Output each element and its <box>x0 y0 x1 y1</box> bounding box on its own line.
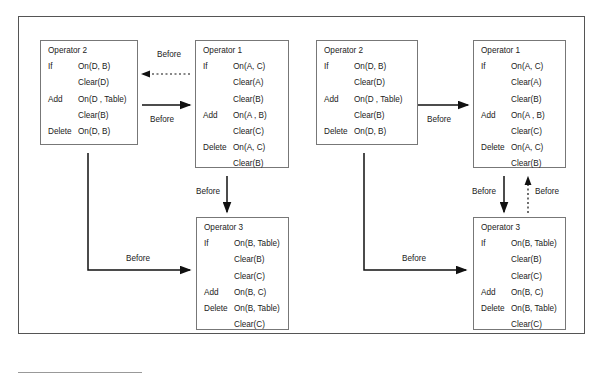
operator-condition: Clear(B) <box>511 252 541 268</box>
operator-row: Clear(C) <box>481 269 565 285</box>
operator-condition: On(B, C) <box>234 285 266 301</box>
operator-condition: On(A, C) <box>233 140 265 156</box>
operator-keyword: Delete <box>481 140 511 156</box>
operator-title: Operator 3 <box>204 220 288 236</box>
operator-row: DeleteOn(B, Table) <box>481 301 565 317</box>
operator-row: IfOn(B, Table) <box>481 236 565 252</box>
operator-condition: On(B, C) <box>511 285 543 301</box>
operator-box-operator-3: Operator 3IfOn(B, Table)Clear(B)Clear(C)… <box>196 217 289 330</box>
operator-row: AddOn(A , B) <box>203 108 288 124</box>
edge-label-before: Before <box>157 50 181 59</box>
operator-row: DeleteOn(D, B) <box>48 124 137 140</box>
operator-row: AddOn(D , Table) <box>324 92 417 108</box>
operator-keyword <box>203 75 233 91</box>
operator-row: IfOn(B, Table) <box>204 236 288 252</box>
edge-label-before: Before <box>535 187 559 196</box>
operator-keyword <box>481 92 511 108</box>
operator-keyword: Add <box>481 108 511 124</box>
operator-row: Clear(D) <box>324 75 417 91</box>
operator-condition: On(D , Table) <box>354 92 403 108</box>
operator-keyword <box>324 108 354 124</box>
operator-keyword <box>481 75 511 91</box>
operator-condition: Clear(C) <box>511 317 542 333</box>
operator-row: IfOn(A, C) <box>481 59 565 75</box>
operator-row: DeleteOn(A, C) <box>481 140 565 156</box>
operator-condition: On(B, Table) <box>511 236 557 252</box>
edge-label-before: Before <box>427 115 451 124</box>
operator-condition: On(D, B) <box>78 59 110 75</box>
operator-condition: Clear(C) <box>511 124 542 140</box>
operator-row: AddOn(A , B) <box>481 108 565 124</box>
operator-row: Clear(B) <box>203 92 288 108</box>
operator-condition: On(D , Table) <box>78 92 127 108</box>
operator-keyword: Delete <box>204 301 234 317</box>
operator-condition: On(B, Table) <box>511 301 557 317</box>
operator-keyword <box>48 108 78 124</box>
operator-row: DeleteOn(B, Table) <box>204 301 288 317</box>
operator-row: Clear(B) <box>204 252 288 268</box>
operator-condition: Clear(A) <box>233 75 263 91</box>
operator-condition: On(A , B) <box>233 108 267 124</box>
operator-box-operator-3: Operator 3IfOn(B, Table)Clear(B)Clear(C)… <box>473 217 566 330</box>
operator-keyword: If <box>203 59 233 75</box>
operator-condition: On(D, B) <box>354 59 386 75</box>
operator-keyword: Add <box>204 285 234 301</box>
operator-row: Clear(B) <box>48 108 137 124</box>
operator-keyword: Delete <box>324 124 354 140</box>
operator-condition: On(A , B) <box>511 108 545 124</box>
operator-row: Clear(D) <box>48 75 137 91</box>
operator-condition: Clear(C) <box>234 269 265 285</box>
operator-keyword: Delete <box>203 140 233 156</box>
operator-condition: On(D, B) <box>354 124 386 140</box>
edge-label-before: Before <box>126 254 150 263</box>
operator-condition: Clear(C) <box>511 269 542 285</box>
operator-keyword <box>204 252 234 268</box>
operator-box-operator-1: Operator 1IfOn(A, C)Clear(A)Clear(B)AddO… <box>473 40 566 168</box>
operator-row: DeleteOn(A, C) <box>203 140 288 156</box>
operator-box-operator-2: Operator 2IfOn(D, B)Clear(D)AddOn(D , Ta… <box>316 40 418 145</box>
operator-condition: Clear(D) <box>78 75 109 91</box>
operator-condition: On(A, C) <box>511 59 543 75</box>
operator-row: Clear(B) <box>481 92 565 108</box>
operator-keyword <box>481 317 511 333</box>
operator-row: IfOn(D, B) <box>324 59 417 75</box>
operator-row: Clear(A) <box>481 75 565 91</box>
operator-keyword: If <box>481 59 511 75</box>
operator-condition: On(A, C) <box>233 59 265 75</box>
operator-condition: On(A, C) <box>511 140 543 156</box>
operator-row: AddOn(B, C) <box>204 285 288 301</box>
edge-label-before: Before <box>472 187 496 196</box>
operator-keyword: If <box>48 59 78 75</box>
operator-keyword: Add <box>203 108 233 124</box>
operator-condition: On(B, Table) <box>234 236 280 252</box>
operator-box-operator-1: Operator 1IfOn(A, C)Clear(A)Clear(B)AddO… <box>195 40 289 168</box>
operator-row: Clear(B) <box>324 108 417 124</box>
operator-row: Clear(B) <box>203 156 288 172</box>
operator-row: Clear(A) <box>203 75 288 91</box>
operator-title: Operator 2 <box>324 43 417 59</box>
operator-condition: Clear(B) <box>511 156 541 172</box>
operator-condition: Clear(B) <box>234 252 264 268</box>
operator-title: Operator 3 <box>481 220 565 236</box>
operator-keyword <box>481 269 511 285</box>
operator-keyword <box>204 269 234 285</box>
operator-keyword <box>203 156 233 172</box>
operator-keyword <box>203 92 233 108</box>
operator-row: IfOn(D, B) <box>48 59 137 75</box>
operator-keyword <box>481 252 511 268</box>
edge-label-before: Before <box>196 187 220 196</box>
operator-condition: Clear(B) <box>233 156 263 172</box>
operator-row: Clear(C) <box>203 124 288 140</box>
operator-condition: Clear(C) <box>233 124 264 140</box>
operator-row: DeleteOn(D, B) <box>324 124 417 140</box>
operator-condition: Clear(A) <box>511 75 541 91</box>
operator-row: Clear(C) <box>481 124 565 140</box>
operator-box-operator-2: Operator 2IfOn(D, B)Clear(D)AddOn(D , Ta… <box>40 40 138 145</box>
operator-title: Operator 1 <box>481 43 565 59</box>
operator-condition: Clear(D) <box>354 75 385 91</box>
operator-condition: On(B, Table) <box>234 301 280 317</box>
operator-title: Operator 1 <box>203 43 288 59</box>
operator-row: Clear(C) <box>204 317 288 333</box>
operator-keyword <box>48 75 78 91</box>
operator-keyword <box>203 124 233 140</box>
